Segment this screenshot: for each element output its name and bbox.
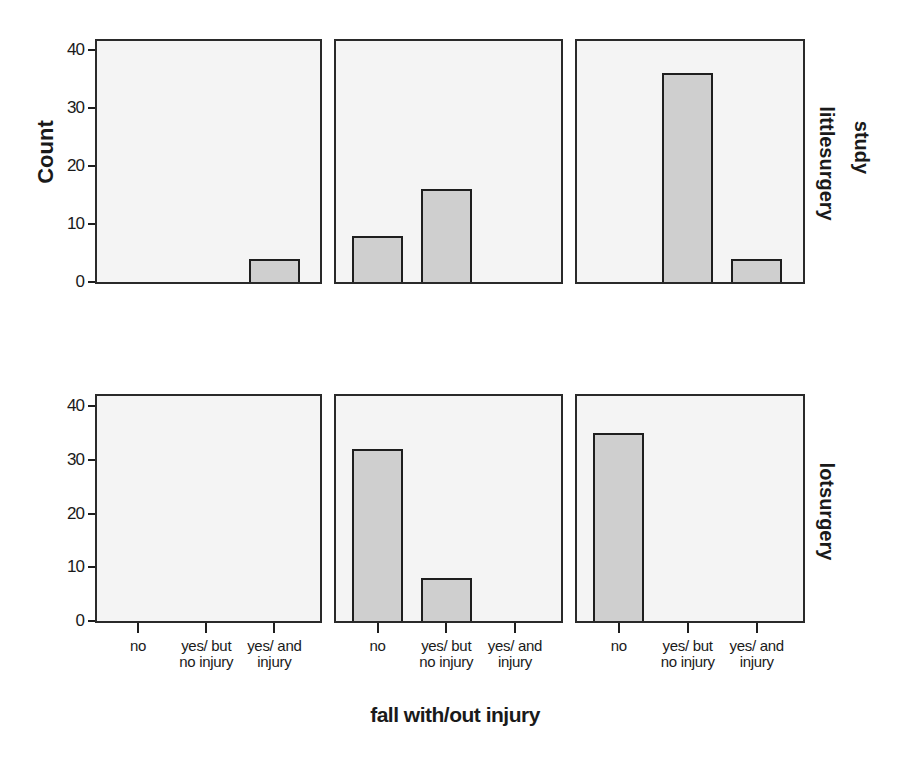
y-tick-label: 30 [56, 450, 84, 470]
y-tick [88, 107, 95, 109]
x-tick [377, 623, 379, 633]
y-tick [88, 620, 95, 622]
y-tick [88, 281, 95, 283]
y-tick-label: 40 [56, 40, 84, 60]
y-tick [88, 49, 95, 51]
y-tick-label: 0 [56, 272, 84, 292]
bar-littlesurgery-2-2 [421, 189, 472, 282]
row-variable-label: study [850, 113, 873, 183]
x-tick-label: no [579, 638, 659, 670]
y-tick-label: 20 [56, 504, 84, 524]
x-axis-title: fall with/out injury [330, 703, 580, 727]
x-tick [445, 623, 447, 633]
x-tick [273, 623, 275, 633]
y-tick [88, 405, 95, 407]
bar-lotsurgery-2-2 [421, 578, 472, 621]
bar-littlesurgery-3-3 [731, 259, 782, 282]
x-tick-label: yes/ butno injury [648, 638, 728, 670]
facet-panel-lotsurgery-1 [95, 394, 322, 623]
x-tick [137, 623, 139, 633]
y-tick-label: 40 [56, 396, 84, 416]
x-tick [205, 623, 207, 633]
facet-panel-lotsurgery-2 [334, 394, 563, 623]
bar-littlesurgery-3-2 [662, 73, 713, 282]
y-tick-label: 10 [56, 214, 84, 234]
row-label-littlesurgery: littlesurgery [815, 89, 838, 239]
row-label-lotsurgery: lotsurgery [815, 452, 838, 572]
y-axis-title: Count [33, 118, 59, 186]
y-tick [88, 513, 95, 515]
y-tick-label: 20 [56, 156, 84, 176]
facet-panel-littlesurgery-2 [334, 39, 563, 284]
facet-panel-littlesurgery-1 [95, 39, 322, 284]
bar-littlesurgery-1-3 [249, 259, 300, 282]
x-tick-label: yes/ andinjury [234, 638, 314, 670]
y-tick-label: 0 [56, 611, 84, 631]
y-tick [88, 459, 95, 461]
facet-panel-lotsurgery-3 [575, 394, 805, 623]
x-tick-label: yes/ andinjury [717, 638, 797, 670]
bar-littlesurgery-2-1 [352, 236, 403, 282]
bar-lotsurgery-3-1 [593, 433, 644, 621]
y-tick-label: 30 [56, 98, 84, 118]
x-tick [618, 623, 620, 633]
x-tick [514, 623, 516, 633]
y-tick [88, 566, 95, 568]
y-tick [88, 223, 95, 225]
x-tick [756, 623, 758, 633]
y-tick-label: 10 [56, 557, 84, 577]
bar-lotsurgery-2-1 [352, 449, 403, 621]
facet-panel-littlesurgery-3 [575, 39, 805, 284]
x-tick-label: yes/ andinjury [475, 638, 555, 670]
y-tick [88, 165, 95, 167]
x-tick [687, 623, 689, 633]
